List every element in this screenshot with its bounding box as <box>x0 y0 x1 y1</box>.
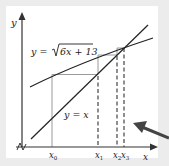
x-axis-label: x <box>143 152 148 162</box>
line-label: y = x <box>63 109 89 120</box>
curve-label: y = 6x + 13 <box>30 44 98 57</box>
x-axis-arrowhead-icon <box>150 144 158 151</box>
y-axis-label: y <box>10 17 17 28</box>
dashed-guides <box>98 48 124 147</box>
svg-text:x0: x0 <box>49 150 58 161</box>
y-axis-arrowhead-icon <box>19 12 26 20</box>
cobweb-diagram: y x y = 6x + 13 y = x x0 x1 x2 x3 <box>0 0 169 166</box>
curve-label-prefix: y = <box>30 46 47 57</box>
curve-label-radicand: 6x + 13 <box>60 46 98 57</box>
svg-text:x1: x1 <box>95 150 103 161</box>
pointer-arrow-icon <box>133 121 169 138</box>
x-tick-labels: x0 x1 x2 x3 <box>49 150 130 161</box>
svg-text:x3: x3 <box>121 150 130 161</box>
cobweb-path <box>52 48 124 147</box>
identity-line <box>31 25 148 139</box>
axes <box>16 12 158 151</box>
